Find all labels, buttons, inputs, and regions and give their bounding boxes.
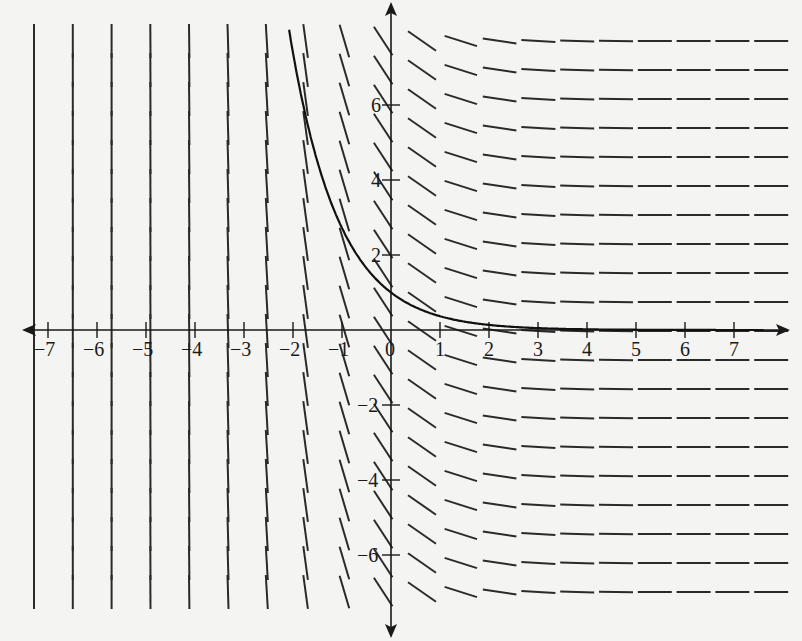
slope-segment	[408, 89, 436, 108]
slope-segment	[521, 185, 555, 187]
slope-segment	[266, 546, 268, 580]
x-tick-label: −1	[328, 338, 349, 360]
slope-segment	[483, 300, 517, 305]
slope-segment	[228, 546, 229, 580]
slope-segment	[340, 257, 350, 290]
slope-segment	[408, 205, 436, 224]
slope-segment	[303, 517, 308, 551]
slope-segment	[340, 402, 350, 435]
slope-segment	[483, 387, 517, 392]
slope-segment	[560, 157, 594, 158]
slope-segment	[521, 388, 555, 390]
x-tick-label: −4	[181, 338, 202, 360]
slope-segment	[521, 272, 555, 274]
x-tick-label: −3	[230, 338, 251, 360]
slope-segment	[374, 143, 393, 171]
slope-segment	[266, 517, 268, 551]
slope-segment	[521, 562, 555, 564]
slope-segment	[560, 41, 594, 42]
slope-segment	[521, 417, 555, 419]
slope-segment	[408, 31, 436, 50]
slope-segment	[483, 474, 517, 479]
y-tick-label: 6	[371, 94, 381, 116]
slope-segment	[303, 430, 308, 464]
slope-segment	[340, 25, 350, 58]
slope-segment	[483, 445, 517, 450]
slope-segment	[560, 476, 594, 477]
slope-segment	[374, 578, 393, 606]
y-tick-label: −2	[357, 394, 378, 416]
slope-segment	[521, 591, 555, 593]
slope-segment	[266, 430, 268, 464]
slope-segment	[340, 489, 350, 522]
slope-segment	[340, 518, 350, 551]
slope-segment	[303, 140, 308, 174]
slope-segment	[303, 401, 308, 435]
slope-segment	[560, 244, 594, 245]
slope-segment	[408, 147, 436, 166]
slope-segment	[303, 343, 308, 377]
slope-segment	[521, 69, 555, 71]
slope-segment	[266, 372, 268, 406]
x-tick-label: 7	[729, 338, 739, 360]
x-tick-label: 6	[680, 338, 690, 360]
slope-segment	[266, 401, 268, 435]
slope-segment	[445, 181, 477, 191]
x-tick-label: 4	[582, 338, 592, 360]
slope-segment	[483, 503, 517, 508]
slope-segment	[560, 389, 594, 390]
slope-segment	[228, 343, 229, 377]
slope-segment	[445, 471, 477, 481]
slope-segment	[228, 488, 229, 522]
slope-segment	[408, 437, 436, 456]
slope-segment	[445, 500, 477, 510]
slope-segment	[560, 302, 594, 303]
slope-segment	[408, 582, 436, 601]
slope-segment	[483, 39, 517, 44]
slope-segment	[303, 372, 308, 406]
slope-segment	[303, 285, 308, 319]
slope-segment	[445, 442, 477, 452]
slope-segment	[445, 529, 477, 539]
slope-segment	[303, 256, 308, 290]
slope-segment	[266, 459, 268, 493]
slope-segment	[374, 114, 393, 142]
slope-segment	[408, 524, 436, 543]
slope-segment	[521, 446, 555, 448]
slope-segment	[228, 169, 229, 203]
slope-segment	[483, 97, 517, 102]
slope-segment	[445, 297, 477, 307]
slope-segment	[483, 126, 517, 131]
x-tick-label: 2	[484, 338, 494, 360]
slope-segment	[266, 24, 268, 58]
slope-segment	[521, 301, 555, 303]
slope-segment	[521, 98, 555, 100]
x-tick-label: 5	[631, 338, 641, 360]
slope-segment	[445, 36, 477, 46]
slope-segment	[483, 213, 517, 218]
slope-segment	[445, 413, 477, 423]
slope-segment	[266, 140, 268, 174]
slope-segment	[560, 99, 594, 100]
slope-segment	[408, 234, 436, 253]
slope-segment	[303, 198, 308, 232]
slope-segment	[228, 198, 229, 232]
slope-segment	[408, 321, 436, 340]
slope-segment	[445, 123, 477, 133]
slope-segment	[340, 54, 350, 87]
x-tick-label: −7	[34, 338, 55, 360]
slope-segment	[408, 292, 436, 311]
slope-segment	[266, 343, 268, 377]
slope-segment	[521, 243, 555, 245]
slope-segment	[303, 24, 308, 58]
slope-segment	[374, 491, 393, 519]
slope-segment	[483, 242, 517, 247]
slope-segment	[228, 314, 229, 348]
slope-segment	[374, 201, 393, 229]
x-tick-label: 3	[533, 338, 543, 360]
slope-segment	[483, 271, 517, 276]
slope-segment	[303, 546, 308, 580]
slope-segment	[266, 227, 268, 261]
slope-segment	[228, 575, 229, 609]
slope-segment	[445, 65, 477, 75]
